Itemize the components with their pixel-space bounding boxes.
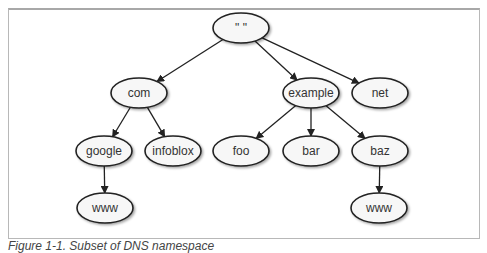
node-com: com: [111, 78, 167, 108]
node-infoblox: infoblox: [145, 136, 201, 166]
edge-root-to-com: [157, 39, 223, 81]
node-label: net: [372, 86, 389, 100]
node-google: google: [76, 136, 132, 166]
nodes: " "comexamplenetgoogleinfobloxfoobarbazw…: [76, 13, 408, 223]
node-label: example: [288, 86, 334, 100]
node-net: net: [352, 78, 408, 108]
figure-caption: Figure 1-1. Subset of DNS namespace: [8, 239, 214, 253]
node-baz: baz: [352, 136, 408, 166]
edge-com-to-infoblox: [147, 107, 164, 136]
node-label: infoblox: [152, 144, 193, 158]
node-foo: foo: [213, 136, 269, 166]
node-label: " ": [235, 21, 247, 35]
node-label: baz: [370, 144, 389, 158]
node-label: foo: [233, 144, 250, 158]
edge-root-to-example: [255, 41, 297, 80]
node-label: com: [128, 86, 151, 100]
edge-example-to-baz: [326, 106, 365, 139]
node-bar: bar: [283, 136, 339, 166]
node-label: google: [86, 144, 122, 158]
node-root: " ": [213, 13, 269, 43]
node-label: bar: [302, 144, 319, 158]
edge-example-to-foo: [256, 106, 296, 139]
node-label: www: [91, 201, 118, 215]
edges: [104, 38, 379, 193]
node-label: www: [365, 201, 392, 215]
node-www-baz: www: [351, 193, 407, 223]
node-www-google: www: [77, 193, 133, 223]
node-example: example: [283, 78, 339, 108]
edge-com-to-google: [113, 107, 131, 136]
